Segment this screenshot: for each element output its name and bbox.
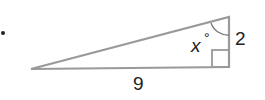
angle-label: x bbox=[191, 36, 201, 55]
angle-arc bbox=[211, 23, 229, 35]
right-angle-marker bbox=[212, 50, 229, 67]
vertical-side-label: 2 bbox=[235, 29, 246, 48]
degree-symbol: ° bbox=[204, 31, 210, 45]
horizontal-side-label: 9 bbox=[133, 74, 144, 93]
